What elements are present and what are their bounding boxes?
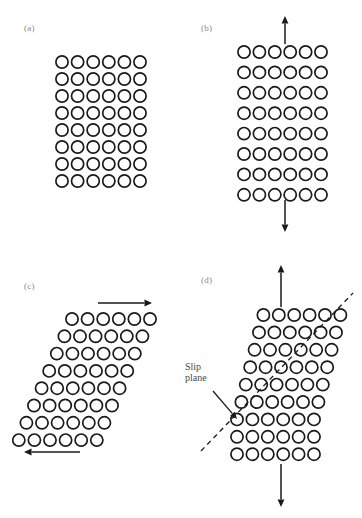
atom	[300, 148, 312, 160]
atom	[44, 434, 56, 446]
panel-a-undeformed: (a)	[0, 0, 181, 259]
atom	[293, 448, 305, 460]
atom	[238, 148, 250, 160]
atom	[121, 365, 133, 377]
atom	[260, 361, 272, 373]
atom	[56, 175, 68, 187]
atom	[253, 128, 265, 140]
atom	[315, 66, 327, 78]
atom	[300, 189, 312, 201]
atom	[59, 399, 71, 411]
atom	[106, 399, 118, 411]
atom	[72, 56, 84, 68]
atom	[51, 348, 63, 360]
atom	[262, 448, 274, 460]
atom	[253, 148, 265, 160]
atom	[282, 396, 294, 408]
atom	[56, 107, 68, 119]
atom	[271, 379, 283, 391]
atom	[238, 128, 250, 140]
atom	[134, 107, 146, 119]
atom	[103, 90, 115, 102]
atom	[144, 313, 156, 325]
atom	[293, 431, 305, 443]
atom	[118, 90, 130, 102]
atom	[266, 396, 278, 408]
atom	[308, 431, 320, 443]
atom	[28, 434, 40, 446]
atom	[246, 431, 258, 443]
atom	[290, 361, 302, 373]
atom	[118, 107, 130, 119]
atom	[118, 141, 130, 153]
panel-c-elastic-shear: (c)	[0, 259, 181, 518]
tension-arrow-down-head	[278, 500, 285, 508]
slip-plane-label-line2: plane	[185, 372, 207, 383]
atom	[72, 158, 84, 170]
atom	[238, 87, 250, 99]
atom	[284, 189, 296, 201]
atom	[300, 66, 312, 78]
atom	[293, 413, 305, 425]
atom	[238, 189, 250, 201]
atom	[134, 56, 146, 68]
atom	[249, 344, 261, 356]
atom	[72, 73, 84, 85]
atom	[319, 309, 331, 321]
atom	[87, 107, 99, 119]
atom	[134, 73, 146, 85]
atom	[315, 107, 327, 119]
lattice-d	[181, 259, 362, 518]
atom	[87, 158, 99, 170]
slip-plane-label: Slip plane	[185, 361, 207, 383]
atom	[330, 326, 342, 338]
slip-plane-label-line1: Slip	[185, 361, 207, 372]
atom	[66, 313, 78, 325]
atom	[136, 330, 148, 342]
atom	[269, 128, 281, 140]
atom	[315, 128, 327, 140]
atom	[299, 326, 311, 338]
atom	[300, 128, 312, 140]
atom	[56, 73, 68, 85]
atom	[28, 399, 40, 411]
lattice-a	[0, 0, 181, 259]
atom	[118, 175, 130, 187]
atom	[269, 87, 281, 99]
atom	[284, 87, 296, 99]
atom	[308, 448, 320, 460]
atom	[300, 87, 312, 99]
atom	[253, 189, 265, 201]
atom-group	[231, 309, 347, 460]
atom	[269, 148, 281, 160]
atom	[315, 326, 327, 338]
atom	[114, 382, 126, 394]
tension-arrow-up-head	[278, 265, 285, 273]
shear-arrow-bottom-head	[24, 449, 32, 456]
atom	[75, 399, 87, 411]
atom	[326, 344, 338, 356]
atom	[257, 309, 269, 321]
atom	[284, 148, 296, 160]
atom	[334, 309, 346, 321]
atom	[98, 417, 110, 429]
shear-arrow-top-head	[145, 300, 153, 307]
atom	[52, 417, 64, 429]
atom	[58, 330, 70, 342]
atom	[301, 379, 313, 391]
atom	[67, 382, 79, 394]
atom	[279, 344, 291, 356]
atom	[87, 56, 99, 68]
atom	[300, 168, 312, 180]
atom	[244, 361, 256, 373]
atom	[83, 417, 95, 429]
atom	[262, 431, 274, 443]
atom	[128, 313, 140, 325]
atom	[264, 344, 276, 356]
slip-plane-pointer-shaft	[213, 391, 232, 414]
atom	[295, 344, 307, 356]
atom	[56, 158, 68, 170]
atom	[284, 326, 296, 338]
atom	[118, 124, 130, 136]
atom	[98, 382, 110, 394]
